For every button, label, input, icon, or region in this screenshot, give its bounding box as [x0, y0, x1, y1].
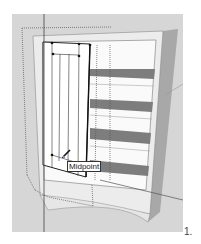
midpoint-inference-marker: [63, 156, 65, 158]
modeling-viewport[interactable]: Midpoint: [12, 14, 183, 232]
figure-step-label: 1.: [184, 226, 192, 237]
inference-tooltip: Midpoint: [67, 161, 101, 172]
cabinet-model: [12, 14, 183, 232]
door-rectangle: [43, 42, 90, 177]
